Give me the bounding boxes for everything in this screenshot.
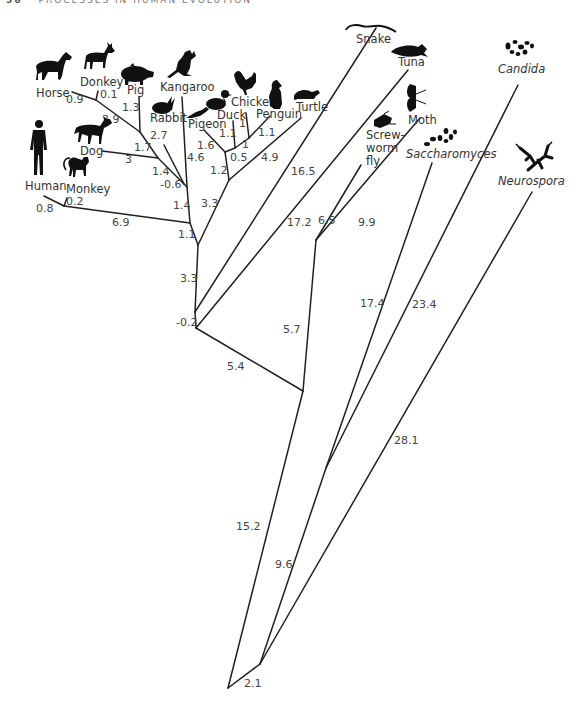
taxon-monkey: Monkey bbox=[66, 182, 111, 196]
branch-neurospora bbox=[260, 192, 532, 664]
len-tuna: 17.2 bbox=[287, 216, 312, 229]
len-placental-stem: -0.6 bbox=[160, 178, 181, 191]
branch-length-labels: 0.9 0.1 1.3 2.9 1.7 3 1.4 2.7 -0.6 4.6 1… bbox=[36, 88, 437, 690]
penguin-icon bbox=[269, 80, 282, 109]
taxon-kangaroo: Kangaroo bbox=[160, 80, 215, 94]
len-pigeon: 1.6 bbox=[197, 139, 215, 152]
taxon-pig: Pig bbox=[127, 83, 144, 97]
fly-icon bbox=[374, 111, 396, 128]
branch-animal-stem bbox=[196, 328, 303, 391]
branch-reptile-stem bbox=[198, 180, 229, 245]
dog-icon bbox=[74, 116, 112, 144]
len-moth: 9.9 bbox=[358, 216, 376, 229]
len-vertebrate-stem: -0.2 bbox=[176, 316, 197, 329]
taxon-human: Human bbox=[25, 179, 66, 193]
tree-branches bbox=[44, 28, 532, 688]
taxon-donkey: Donkey bbox=[80, 75, 124, 89]
kangaroo-icon bbox=[167, 50, 196, 78]
turtle-icon bbox=[294, 90, 320, 100]
branch-donkey bbox=[96, 91, 98, 100]
taxon-horse: Horse bbox=[36, 86, 69, 100]
taxon-rabbit: Rabbit bbox=[150, 111, 188, 125]
len-screwworm-fly: 6.5 bbox=[318, 214, 336, 227]
len-carnivore-ungulate-stem: 1.4 bbox=[152, 165, 170, 178]
taxon-snake: Snake bbox=[356, 32, 391, 46]
len-ungulate-stem: 1.7 bbox=[134, 141, 152, 154]
len-fungi-root-stem: 2.1 bbox=[244, 677, 262, 690]
len-saccharomyces: 17.4 bbox=[360, 297, 385, 310]
len-candida: 23.4 bbox=[412, 298, 437, 311]
len-yeast-stem: 9.6 bbox=[275, 558, 293, 571]
taxon-neurospora: Neurospora bbox=[498, 174, 565, 188]
taxon-tuna: Tuna bbox=[397, 55, 425, 69]
len-human: 0.8 bbox=[36, 202, 54, 215]
snake-icon bbox=[346, 25, 396, 32]
len-animal-stem: 5.4 bbox=[227, 360, 245, 373]
branch-insect-stem bbox=[303, 240, 316, 391]
len-penguin: 1.1 bbox=[258, 126, 276, 139]
len-bird-turtle-stem: 1.2 bbox=[210, 164, 228, 177]
yeast-icon bbox=[424, 128, 457, 146]
len-mammal-stem: 1.4 bbox=[173, 199, 191, 212]
branch-animal-root-stem bbox=[228, 391, 303, 688]
donkey-icon bbox=[84, 42, 115, 69]
taxon-dog: Dog bbox=[80, 144, 103, 158]
len-dog: 3 bbox=[125, 153, 132, 166]
len-primate-stem: 6.9 bbox=[112, 216, 130, 229]
branch-candida bbox=[326, 85, 518, 468]
fish-icon bbox=[391, 44, 428, 57]
len-turtle: 4.9 bbox=[261, 151, 279, 164]
moth-icon bbox=[407, 84, 426, 112]
taxon-saccharomyces: Saccharomyces bbox=[406, 147, 497, 161]
taxon-screwworm-line3: fly bbox=[366, 154, 380, 168]
len-chicken-penguin-stem: 1 bbox=[242, 138, 249, 151]
len-snake: 16.5 bbox=[291, 165, 316, 178]
branch-chicken bbox=[246, 113, 249, 138]
pig-icon bbox=[121, 63, 154, 85]
taxon-duck: Duck bbox=[217, 108, 246, 122]
branch-screwworm-fly bbox=[316, 165, 361, 240]
len-bird-stem: 0.5 bbox=[230, 151, 248, 164]
len-pig: 1.3 bbox=[122, 101, 140, 114]
phylogenetic-tree: 0.9 0.1 1.3 2.9 1.7 3 1.4 2.7 -0.6 4.6 1… bbox=[0, 0, 575, 703]
taxon-candida: Candida bbox=[498, 62, 545, 76]
len-donkey: 0.1 bbox=[100, 88, 118, 101]
len-insect-stem: 5.7 bbox=[283, 323, 301, 336]
len-rabbit: 2.7 bbox=[150, 129, 168, 142]
taxon-moth: Moth bbox=[408, 113, 437, 127]
human-icon bbox=[30, 120, 47, 175]
taxon-turtle: Turtle bbox=[295, 100, 328, 114]
horse-icon bbox=[36, 52, 72, 80]
len-neurospora: 28.1 bbox=[394, 434, 419, 447]
taxon-screwworm-fly: Screw- worm fly bbox=[366, 128, 408, 168]
len-animal-root-stem: 15.2 bbox=[236, 520, 261, 533]
monkey-icon bbox=[64, 157, 89, 177]
fungus-icon bbox=[516, 142, 552, 170]
len-reptile-stem: 3.3 bbox=[201, 197, 219, 210]
len-amniote-stem: 3.3 bbox=[180, 272, 198, 285]
taxon-screwworm-line1: Screw- bbox=[366, 128, 405, 142]
taxon-screwworm-line2: worm bbox=[366, 141, 398, 155]
chicken-icon bbox=[234, 71, 256, 95]
len-kangaroo: 4.6 bbox=[187, 151, 205, 164]
candida-icon bbox=[506, 40, 535, 56]
len-mammal-primate-join: 1.1 bbox=[178, 228, 196, 241]
len-monkey: 0.2 bbox=[66, 195, 84, 208]
